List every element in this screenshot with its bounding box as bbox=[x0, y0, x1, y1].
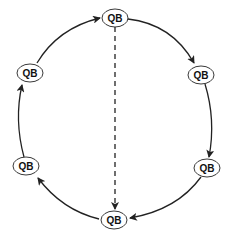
node-top: QB bbox=[102, 9, 128, 27]
cycle-diagram: QB QB QB QB QB QB bbox=[0, 0, 229, 248]
node-label: QB bbox=[200, 163, 215, 174]
node-lower-right: QB bbox=[194, 159, 220, 177]
node-label: QB bbox=[23, 68, 38, 79]
node-upper-right: QB bbox=[188, 66, 214, 84]
node-label: QB bbox=[108, 13, 123, 24]
node-upper-left: QB bbox=[17, 64, 43, 82]
edge-upper-left-to-top bbox=[37, 18, 100, 63]
node-label: QB bbox=[19, 161, 34, 172]
node-label: QB bbox=[107, 215, 122, 226]
edge-top-to-upper-right bbox=[128, 19, 194, 63]
edge-upper-right-to-lower-right bbox=[205, 84, 212, 157]
edge-lower-right-to-bottom bbox=[130, 177, 201, 218]
node-label: QB bbox=[194, 70, 209, 81]
node-bottom: QB bbox=[101, 211, 127, 229]
node-lower-left: QB bbox=[13, 157, 39, 175]
edge-lower-left-to-upper-left bbox=[18, 85, 24, 157]
edge-bottom-to-lower-left bbox=[38, 178, 99, 219]
